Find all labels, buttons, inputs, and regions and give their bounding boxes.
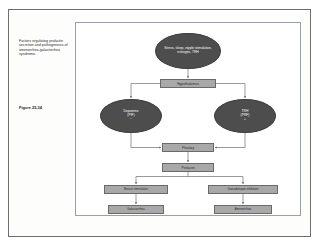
node-amenorrhea-label: Amenorrhea xyxy=(215,208,271,212)
node-trh[interactable]: TRH (PRF) + xyxy=(214,99,276,133)
node-stress[interactable]: Stress, sleep, nipple stimulation, estro… xyxy=(155,33,221,69)
node-breast-stimulation[interactable]: Breast stimulation xyxy=(104,185,168,194)
node-galactorrhea[interactable]: Galactorrhea xyxy=(108,205,164,214)
node-gonadotropin-inhibition[interactable]: Gonadotropin inhibition xyxy=(208,185,278,194)
node-breast-stimulation-label: Breast stimulation xyxy=(105,188,167,192)
node-pituitary-label: Pituitary xyxy=(163,146,213,150)
node-hypothalamus[interactable]: Hypothalamus xyxy=(160,79,216,88)
node-pituitary[interactable]: Pituitary xyxy=(162,143,214,152)
node-dopamine[interactable]: Dopamine (PIF) − xyxy=(100,99,162,133)
node-hypothalamus-label: Hypothalamus xyxy=(161,82,215,86)
node-stress-label: Stress, sleep, nipple stimulation, estro… xyxy=(156,47,220,55)
diagram-canvas: Stress, sleep, nipple stimulation, estro… xyxy=(76,23,300,215)
caption-column: Factors regulating prolactin secretion a… xyxy=(19,20,71,228)
node-trh-label: TRH (PRF) + xyxy=(215,110,275,122)
slide-page: Factors regulating prolactin secretion a… xyxy=(8,9,311,237)
node-prolactin[interactable]: Prolactin xyxy=(162,163,214,172)
figure-number-label: Figure 25-34 xyxy=(19,105,71,110)
node-dopamine-label: Dopamine (PIF) − xyxy=(101,110,161,122)
node-prolactin-label: Prolactin xyxy=(163,166,213,170)
diagram-frame: Stress, sleep, nipple stimulation, estro… xyxy=(75,22,301,216)
node-galactorrhea-label: Galactorrhea xyxy=(109,208,163,212)
figure-caption-text: Factors regulating prolactin secretion a… xyxy=(19,39,71,57)
node-amenorrhea[interactable]: Amenorrhea xyxy=(214,205,272,214)
node-gonadotropin-inhibition-label: Gonadotropin inhibition xyxy=(209,188,277,192)
